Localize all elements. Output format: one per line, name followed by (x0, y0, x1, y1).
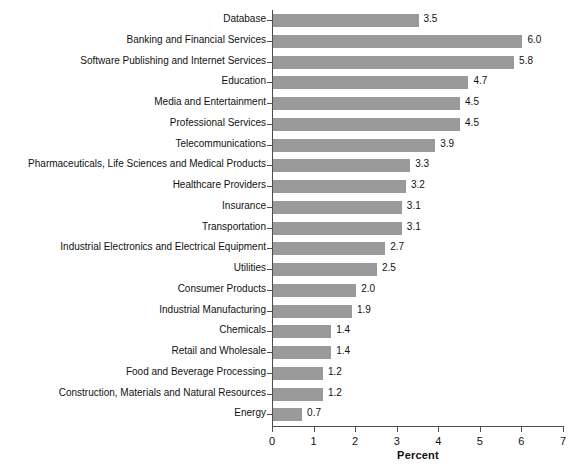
y-axis-tick (267, 228, 272, 229)
x-axis-title: Percent (272, 449, 564, 461)
y-axis-tick (267, 41, 272, 42)
bar (273, 346, 331, 359)
category-label: Software Publishing and Internet Service… (80, 54, 266, 68)
x-axis-tick (521, 427, 522, 432)
bar-value-label: 3.9 (440, 137, 454, 151)
bar-value-label: 1.2 (328, 386, 342, 400)
y-axis-tick (267, 124, 272, 125)
x-axis-tick-label: 0 (257, 434, 287, 448)
bar-row: Pharmaceuticals, Life Sciences and Medic… (0, 155, 572, 177)
category-label: Industrial Electronics and Electrical Eq… (60, 240, 266, 254)
bar (273, 180, 406, 193)
bar-value-label: 2.7 (390, 240, 404, 254)
bar-row: Industrial Manufacturing1.9 (0, 301, 572, 323)
bar-value-label: 4.5 (465, 95, 479, 109)
category-label: Banking and Financial Services (126, 33, 266, 47)
bar (273, 201, 402, 214)
category-label: Utilities (234, 261, 266, 275)
y-axis-tick (267, 207, 272, 208)
x-axis-tick (355, 427, 356, 432)
bar-row: Transportation3.1 (0, 218, 572, 240)
x-axis-tick-label: 5 (465, 434, 495, 448)
x-axis-tick-label: 6 (506, 434, 536, 448)
y-axis-tick (267, 352, 272, 353)
category-label: Chemicals (219, 323, 266, 337)
y-axis-tick (267, 165, 272, 166)
bar-row: Utilities2.5 (0, 259, 572, 281)
bar (273, 367, 323, 380)
category-label: Database (223, 12, 266, 26)
category-label: Healthcare Providers (173, 178, 266, 192)
bar (273, 139, 435, 152)
bar (273, 325, 331, 338)
category-label: Pharmaceuticals, Life Sciences and Medic… (28, 157, 266, 171)
bar (273, 159, 410, 172)
bar (273, 305, 352, 318)
bar-row: Education4.7 (0, 72, 572, 94)
y-axis-tick (267, 269, 272, 270)
bar-value-label: 3.2 (411, 178, 425, 192)
bar-row: Consumer Products2.0 (0, 280, 572, 302)
x-axis-tick (480, 427, 481, 432)
bar (273, 263, 377, 276)
bar-value-label: 3.5 (424, 12, 438, 26)
y-axis-tick (267, 311, 272, 312)
category-label: Transportation (202, 220, 266, 234)
y-axis-tick (267, 414, 272, 415)
category-label: Industrial Manufacturing (159, 303, 266, 317)
bar (273, 222, 402, 235)
bar-value-label: 4.5 (465, 116, 479, 130)
y-axis-tick (267, 290, 272, 291)
bar-value-label: 2.0 (361, 282, 375, 296)
bar (273, 56, 514, 69)
bar-chart: Database3.5Banking and Financial Service… (0, 0, 572, 470)
bar-value-label: 3.1 (407, 199, 421, 213)
bar-row: Energy0.7 (0, 404, 572, 426)
y-axis-tick (267, 103, 272, 104)
x-axis-tick (438, 427, 439, 432)
bar (273, 408, 302, 421)
category-label: Consumer Products (178, 282, 266, 296)
x-axis-tick (314, 427, 315, 432)
category-label: Food and Beverage Processing (126, 365, 266, 379)
category-label: Retail and Wholesale (172, 344, 267, 358)
x-axis-tick (397, 427, 398, 432)
bar-value-label: 4.7 (473, 74, 487, 88)
bar (273, 388, 323, 401)
bar-row: Industrial Electronics and Electrical Eq… (0, 238, 572, 260)
bar (273, 14, 419, 27)
bar (273, 97, 460, 110)
bar-row: Food and Beverage Processing1.2 (0, 363, 572, 385)
x-axis-tick-label: 4 (423, 434, 453, 448)
x-axis-tick-label: 1 (299, 434, 329, 448)
y-axis-tick (267, 394, 272, 395)
x-axis-line (272, 426, 564, 427)
x-axis-tick-label: 3 (382, 434, 412, 448)
bar-row: Retail and Wholesale1.4 (0, 342, 572, 364)
category-label: Professional Services (170, 116, 266, 130)
bar-value-label: 2.5 (382, 261, 396, 275)
y-axis-tick (267, 248, 272, 249)
bar-value-label: 6.0 (527, 33, 541, 47)
y-axis-tick (267, 145, 272, 146)
x-axis-tick (272, 427, 273, 432)
bar (273, 118, 460, 131)
bar-row: Construction, Materials and Natural Reso… (0, 384, 572, 406)
bar-row: Banking and Financial Services6.0 (0, 31, 572, 53)
bar-row: Media and Entertainment4.5 (0, 93, 572, 115)
bar-value-label: 1.4 (336, 344, 350, 358)
x-axis-tick-label: 2 (340, 434, 370, 448)
bar-row: Software Publishing and Internet Service… (0, 52, 572, 74)
bar-value-label: 3.1 (407, 220, 421, 234)
category-label: Insurance (222, 199, 266, 213)
x-axis-tick-label: 7 (548, 434, 572, 448)
x-axis-tick (563, 427, 564, 432)
y-axis-tick (267, 62, 272, 63)
category-label: Telecommunications (175, 137, 266, 151)
y-axis-tick (267, 82, 272, 83)
y-axis-tick (267, 331, 272, 332)
bar-value-label: 3.3 (415, 157, 429, 171)
bar-row: Professional Services4.5 (0, 114, 572, 136)
bar (273, 76, 468, 89)
bar-value-label: 1.9 (357, 303, 371, 317)
